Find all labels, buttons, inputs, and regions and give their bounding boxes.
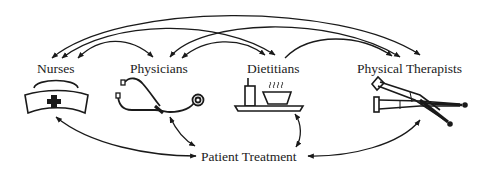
stethoscope-icon: [116, 78, 204, 113]
edge-physical-therapists-patient-treatment: [308, 120, 420, 156]
node-label-dietitians: Dietitians: [247, 62, 300, 76]
edge-dietitians-patient-treatment: [295, 114, 300, 147]
food-tray-icon: [235, 78, 303, 111]
node-label-patient-treatment: Patient Treatment: [201, 150, 297, 164]
edge-nurses-physicians: [78, 41, 153, 58]
edge-physicians-patient-treatment: [170, 117, 195, 146]
edge-physicians-dietitians: [182, 42, 265, 58]
crutches-icon: [372, 77, 467, 126]
edge-nurses-patient-treatment: [56, 117, 196, 156]
node-label-physical-therapists: Physical Therapists: [357, 62, 462, 76]
nurse-cap-icon: [25, 81, 88, 114]
node-label-physicians: Physicians: [130, 62, 188, 76]
edge-dietitians-physical-therapists: [285, 39, 392, 58]
collaboration-diagram: [0, 0, 486, 171]
node-label-nurses: Nurses: [37, 62, 75, 76]
edge-nurses-dietitians: [62, 28, 275, 58]
